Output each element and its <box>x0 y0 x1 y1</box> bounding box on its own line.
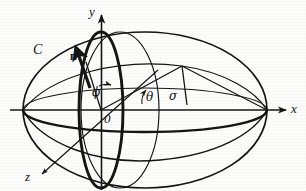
lower-section-arc <box>23 110 267 161</box>
curve-c-label: C <box>33 43 42 57</box>
x-axis-label: x <box>291 102 297 115</box>
chord-upper-right <box>182 66 267 110</box>
z-axis-label: z <box>25 170 30 183</box>
origin-label: 0 <box>104 112 111 125</box>
oblique-section-ellipse <box>23 64 267 110</box>
normal-vector-label: n <box>70 50 77 62</box>
y-axis-label: y <box>89 5 95 18</box>
ellipsoid-figure: y x z 0 C n ϕ θ σ <box>0 0 306 191</box>
angle-phi-label: ϕ <box>92 86 100 98</box>
sigma-drop-line <box>182 66 187 105</box>
angle-theta-label: θ <box>146 91 153 103</box>
angle-sigma-label: σ <box>169 90 177 102</box>
